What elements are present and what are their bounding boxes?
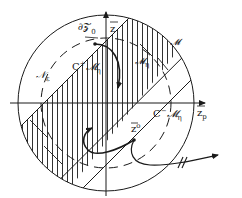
region-minus-label: C−𝓜η: [153, 109, 182, 119]
manifold-label: 𝓜: [170, 38, 180, 47]
manifold-eta-symbol: 𝓜: [135, 56, 145, 66]
region-plus-c: C: [72, 61, 80, 72]
vertical-axis-label: z: [110, 24, 115, 34]
region-plus-label: C+𝓜η: [72, 62, 101, 72]
boundary-subscript: 0: [91, 28, 95, 36]
boundary-label: ∂𝒵0: [78, 22, 96, 32]
manifold-eta-label: 𝓜η: [135, 57, 149, 66]
initial-point-sup: o: [136, 122, 140, 130]
trajectory-upper-start-dot: [93, 42, 97, 46]
region-minus-sup: −: [161, 107, 167, 115]
phase-diagram: [0, 0, 242, 198]
boundary-symbol: ∂𝒵: [78, 21, 91, 32]
manifold-symbol: 𝓜: [170, 37, 180, 47]
horizontal-axis-label: zp: [197, 108, 207, 118]
band-fill: [0, 0, 242, 198]
hatched-manifold-band: [0, 0, 242, 198]
neighborhood-symbol: 𝒩: [36, 69, 46, 80]
horizontal-axis-subscript: p: [202, 113, 206, 121]
region-plus-sub: η: [97, 67, 101, 75]
manifold-eta-subscript: η: [145, 61, 149, 69]
region-plus-set: 𝓜: [86, 61, 97, 72]
trajectory-escaping: [131, 140, 218, 165]
region-minus-sub: η: [178, 114, 182, 122]
vertical-axis-symbol: z: [110, 23, 115, 34]
region-minus-c: C: [153, 108, 161, 119]
neighborhood-subscript: ε: [46, 75, 50, 83]
neighborhood-label: 𝒩ε: [36, 70, 50, 80]
initial-point-label: zo: [131, 124, 141, 134]
region-plus-sup: +: [80, 60, 86, 68]
region-minus-set: 𝓜: [167, 108, 178, 119]
